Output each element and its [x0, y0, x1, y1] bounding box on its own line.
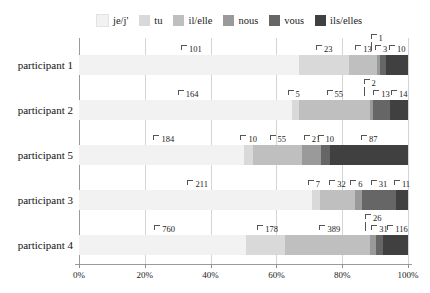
category-label-1: participant 2: [18, 104, 73, 116]
leader-line: [361, 135, 367, 140]
bar-segment: [79, 145, 244, 165]
stacked-bar-chart: je/j'tuil/ellenousvousils/elles 10123131…: [0, 0, 430, 293]
plot-area: 1012313131016455521314184105521108721173…: [79, 38, 408, 264]
legend-label: je/j': [113, 15, 128, 26]
x-tick: [79, 264, 80, 268]
bar-segment: [79, 235, 246, 255]
bar-segment: [386, 55, 408, 75]
legend-label: tu: [154, 15, 162, 26]
leader-line: [153, 135, 159, 140]
bar-segment: [362, 190, 396, 210]
leader-line: [394, 180, 400, 185]
segment-value-label: 6: [350, 179, 362, 189]
bar-segment: [330, 145, 408, 165]
segment-value-label: 760: [154, 224, 175, 234]
segment-value-label: 13: [355, 44, 372, 54]
leader-line: [371, 225, 377, 230]
leader-line: [316, 45, 322, 50]
leader-line: [181, 45, 187, 50]
x-tick: [408, 264, 409, 268]
legend-item-1: tu: [139, 15, 162, 26]
bar-segment: [79, 190, 312, 210]
bar-segment: [79, 100, 292, 120]
segment-value-label: 101: [181, 44, 202, 54]
segment-value: 3: [383, 44, 387, 54]
segment-value: 13: [381, 89, 390, 99]
bar-row: [79, 235, 408, 255]
leader-line: [308, 180, 314, 185]
chart-legend: je/j'tuil/ellenousvousils/elles: [96, 12, 414, 28]
leader-stem: [371, 42, 372, 51]
segment-value: 7: [316, 179, 320, 189]
leader-line: [391, 90, 397, 95]
segment-value-label: 3: [375, 44, 387, 54]
segment-value-label: 7: [308, 179, 320, 189]
bar-segment: [349, 55, 377, 75]
segment-value-label: 87: [361, 134, 378, 144]
bar-segment: [396, 190, 408, 210]
category-label-0: participant 1: [18, 59, 73, 71]
leader-line: [371, 34, 377, 39]
legend-item-0: je/j': [96, 14, 128, 27]
leader-line: [371, 180, 377, 185]
legend-item-3: nous: [223, 15, 258, 26]
leader-line: [257, 225, 263, 230]
segment-value-label: 14: [391, 89, 408, 99]
bar-segment: [244, 145, 253, 165]
segment-value: 11: [402, 179, 410, 189]
bar-segment: [299, 100, 371, 120]
segment-value: 101: [189, 44, 202, 54]
segment-value-label: 116: [387, 224, 407, 234]
segment-value: 31: [379, 179, 388, 189]
segment-value: 23: [324, 44, 333, 54]
leader-line: [178, 90, 184, 95]
segment-value: 211: [195, 179, 207, 189]
segment-value-label: 211: [187, 179, 207, 189]
segment-value: 184: [161, 134, 174, 144]
segment-value-label: 1: [371, 33, 383, 43]
segment-value-label: 5: [288, 89, 300, 99]
segment-value: 164: [186, 89, 199, 99]
leader-line: [154, 225, 160, 230]
legend-label: ils/elles: [330, 15, 362, 26]
x-tick: [276, 264, 277, 268]
segment-value-label: 55: [327, 89, 344, 99]
segment-value-label: 184: [153, 134, 174, 144]
x-tick-label: 80%: [334, 270, 351, 280]
segment-value: 14: [399, 89, 408, 99]
bar-segment: [79, 55, 299, 75]
segment-value-label: 55: [270, 134, 287, 144]
segment-value-label: 13: [373, 89, 390, 99]
category-label-4: participant 4: [18, 239, 73, 251]
segment-value-label: 10: [389, 44, 406, 54]
leader-line: [288, 90, 294, 95]
leader-line: [389, 45, 395, 50]
leader-line: [387, 225, 393, 230]
legend-swatch-icon: [223, 15, 234, 26]
x-tick: [211, 264, 212, 268]
bar-row: [79, 55, 408, 75]
segment-value: 760: [162, 224, 175, 234]
category-label-3: participant 3: [18, 194, 73, 206]
legend-swatch-icon: [96, 14, 109, 27]
legend-swatch-icon: [315, 15, 326, 26]
bar-segment: [376, 235, 383, 255]
segment-value: 32: [337, 179, 346, 189]
x-tick-label: 40%: [202, 270, 219, 280]
leader-line: [329, 180, 335, 185]
legend-swatch-icon: [173, 15, 184, 26]
segment-value-label: 178: [257, 224, 278, 234]
segment-value: 5: [296, 89, 300, 99]
bar-segment: [246, 235, 285, 255]
segment-value: 55: [335, 89, 344, 99]
leader-line: [364, 79, 370, 84]
bar-segment: [320, 190, 355, 210]
segment-value: 55: [278, 134, 287, 144]
segment-value: 116: [395, 224, 407, 234]
legend-swatch-icon: [269, 15, 280, 26]
x-tick-label: 20%: [137, 270, 154, 280]
leader-stem: [365, 222, 366, 231]
x-tick: [145, 264, 146, 268]
legend-item-2: il/elle: [173, 15, 212, 26]
x-tick: [342, 264, 343, 268]
